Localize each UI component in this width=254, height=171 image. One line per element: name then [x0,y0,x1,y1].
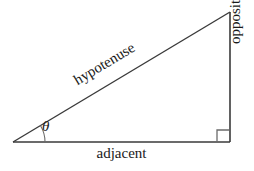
opposite-label: opposite [228,0,243,44]
right-triangle-diagram: hypotenuse opposite adjacent θ [0,0,254,171]
right-angle-marker-icon [217,130,229,142]
theta-angle-label: θ [42,119,49,134]
adjacent-label: adjacent [0,146,243,161]
